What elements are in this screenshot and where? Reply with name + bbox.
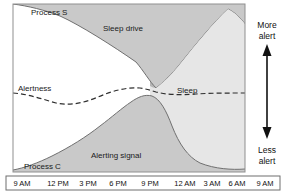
two-process-sleep-model-figure: Process S Sleep drive Alertness Sleep Al…: [0, 0, 290, 193]
x-tick-label-3: 6 PM: [109, 179, 127, 188]
more-alert-label-line1: More: [257, 20, 277, 30]
x-tick-label-6: 3 AM: [203, 179, 220, 188]
x-tick-label-7: 6 AM: [228, 179, 245, 188]
alerting-signal-label: Alerting signal: [91, 151, 141, 160]
x-tick-label-5: 12 AM: [174, 179, 195, 188]
x-tick-label-4: 9 PM: [141, 179, 159, 188]
chart-canvas: Process S Sleep drive Alertness Sleep Al…: [0, 0, 290, 193]
x-axis-ticks: 9 AM12 PM3 PM6 PM9 PM12 AM3 AM6 AM9 AM: [13, 179, 273, 188]
x-tick-label-8: 9 AM: [256, 179, 273, 188]
more-alert-label-line2: alert: [259, 31, 276, 41]
alertness-label: Alertness: [18, 84, 51, 93]
process-s-label: Process S: [31, 8, 67, 17]
process-c-label: Process C: [24, 162, 61, 171]
x-tick-label-2: 3 PM: [79, 179, 97, 188]
less-alert-label-line2: alert: [259, 156, 276, 166]
sleep-drive-label: Sleep drive: [103, 24, 144, 33]
less-alert-label-line1: Less: [258, 145, 276, 155]
sleep-label: Sleep: [177, 86, 198, 95]
x-tick-label-1: 12 PM: [47, 179, 69, 188]
x-tick-label-0: 9 AM: [13, 179, 30, 188]
